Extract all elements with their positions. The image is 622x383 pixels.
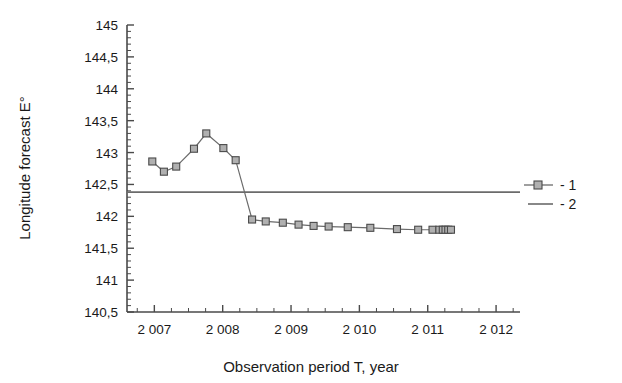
data-point-marker (415, 226, 422, 233)
x-tick-label: 2 010 (342, 322, 376, 337)
data-point-marker (295, 221, 302, 228)
legend-label-2: - 2 (560, 196, 577, 212)
longitude-forecast-chart: 140,5141141,5142142,5143143,5144144,5145… (0, 0, 622, 383)
y-tick-label: 144 (95, 82, 118, 97)
data-point-marker (262, 218, 269, 225)
x-tick-label: 2 009 (274, 322, 308, 337)
y-tick-label: 143,5 (84, 114, 118, 129)
data-point-marker (249, 216, 256, 223)
data-point-marker (325, 223, 332, 230)
y-tick-label: 142 (95, 209, 118, 224)
data-point-marker (190, 145, 197, 152)
y-axis-title: Longitude forecast E° (16, 96, 33, 240)
data-point-marker (447, 226, 454, 233)
y-tick-label: 143 (95, 146, 118, 161)
data-point-marker (367, 224, 374, 231)
legend-square-marker-icon (534, 181, 542, 189)
data-point-marker (203, 130, 210, 137)
x-tick-label: 2 012 (479, 322, 513, 337)
data-point-marker (393, 226, 400, 233)
y-tick-label: 140,5 (84, 305, 118, 320)
x-tick-label: 2 011 (411, 322, 444, 337)
y-tick-label: 142,5 (84, 177, 118, 192)
data-point-marker (232, 157, 239, 164)
y-tick-label: 144,5 (84, 50, 118, 65)
y-tick-label: 145 (95, 18, 118, 33)
data-point-marker (279, 219, 286, 226)
y-tick-label: 141,5 (84, 241, 118, 256)
data-point-marker (429, 226, 436, 233)
legend-label-1: - 1 (560, 177, 577, 193)
data-point-marker (310, 222, 317, 229)
data-point-marker (220, 145, 227, 152)
x-tick-label: 2 007 (137, 322, 171, 337)
x-axis-title: Observation period T, year (223, 358, 399, 375)
y-tick-label: 141 (95, 273, 118, 288)
data-point-marker (160, 168, 167, 175)
data-point-marker (344, 224, 351, 231)
x-tick-label: 2 008 (206, 322, 240, 337)
data-point-marker (149, 158, 156, 165)
data-point-marker (173, 163, 180, 170)
